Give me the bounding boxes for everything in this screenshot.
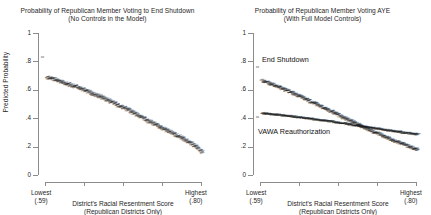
y-tick-right-3: .6 <box>248 90 253 91</box>
x-tick-right-4 <box>416 182 417 186</box>
y-tick-left-3: .6 <box>33 90 38 91</box>
x-axis-title-right: District's Racial Resentment Score (Repu… <box>260 200 416 215</box>
y-axis-title-left-text: Predicted Probability <box>2 52 9 112</box>
y-axis-line-left <box>38 33 39 175</box>
panel-right-title-line2: (With Full Model Controls) <box>215 15 430 23</box>
x-tick-right-3 <box>377 182 378 186</box>
x-tick-right-0 <box>260 182 261 186</box>
panel-left: Probability of Republican Member Voting … <box>0 0 215 215</box>
svg-text:oooo: oooo <box>200 151 205 154</box>
y-axis-line-right <box>253 33 254 175</box>
x-tick-right-1 <box>299 182 300 186</box>
y-tick-left-5: 1 <box>33 33 38 34</box>
scatter-band-left: oooooooooooooooooooooooooooooooooooooooo… <box>45 33 201 175</box>
series-label-vawa: VAWA Reauthorization <box>258 127 330 136</box>
y-tick-left-0: 0 <box>33 175 38 176</box>
y-tick-right-5: 1 <box>248 33 253 34</box>
x-tick-left-1 <box>84 182 85 186</box>
panel-left-title-line2: (No Controls in the Model) <box>0 15 215 23</box>
panel-right-title-line1: Probability of Republican Member Voting … <box>215 7 430 15</box>
stray-marker-right-2: oo <box>256 116 259 119</box>
panel-right: Probability of Republican Member Voting … <box>215 0 430 215</box>
plot-area-left: 0 .2 .4 .6 .8 1 ooooooooooooooo <box>45 33 201 175</box>
stray-marker-left: oo <box>41 56 44 59</box>
figure-two-panel-scatter: Probability of Republican Member Voting … <box>0 0 431 215</box>
y-tick-right-4: .8 <box>248 61 253 62</box>
y-tick-left-4: .8 <box>33 61 38 62</box>
x-tick-left-3 <box>162 182 163 186</box>
panel-right-title: Probability of Republican Member Voting … <box>215 7 430 23</box>
y-tick-left-1: .2 <box>33 147 38 148</box>
y-axis-title-left: Predicted Probability <box>2 0 9 52</box>
x-axis-title-left: District's Racial Resentment Score (Repu… <box>45 200 201 215</box>
series-label-end-shutdown: End Shutdown <box>262 55 309 64</box>
y-tick-right-0: 0 <box>248 175 253 176</box>
x-tick-right-2 <box>338 182 339 186</box>
x-tick-left-2 <box>123 182 124 186</box>
x-tick-left-0 <box>45 182 46 186</box>
y-tick-right-1: .2 <box>248 147 253 148</box>
plot-area-right: 0 .2 .4 .6 .8 1 ooooooooooooooo <box>260 33 416 175</box>
x-tick-left-4 <box>201 182 202 186</box>
y-tick-right-2: .4 <box>248 118 253 119</box>
y-tick-left-2: .4 <box>33 118 38 119</box>
stray-marker-right-1: oo <box>256 66 259 69</box>
panel-left-title-line1: Probability of Republican Member Voting … <box>0 7 215 15</box>
panel-left-title: Probability of Republican Member Voting … <box>0 7 215 23</box>
svg-text:oooo: oooo <box>416 132 420 134</box>
